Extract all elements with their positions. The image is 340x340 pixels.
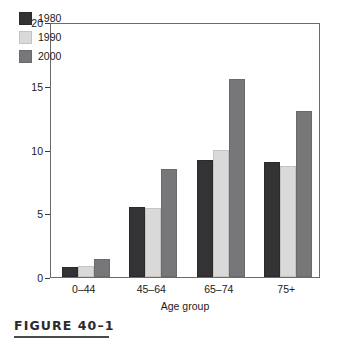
legend-swatch-icon (19, 12, 32, 25)
bar-2000-0–44 (94, 259, 110, 277)
bar-1990-65–74 (213, 150, 229, 278)
x-axis-title: Age group (50, 300, 320, 312)
x-axis-tick-label: 45–64 (116, 284, 186, 295)
bar-1990-45–64 (145, 208, 161, 277)
bar-group (129, 24, 177, 277)
legend-item-1990: 1990 (19, 28, 61, 47)
y-axis-title: Diabetes prevalence/100 population (0, 0, 16, 39)
y-axis-tick-label: 5 (17, 209, 43, 219)
bar-1980-75+ (264, 162, 280, 277)
legend-label: 2000 (38, 51, 61, 62)
bar-1990-0–44 (78, 266, 94, 277)
y-axis-tick-mark (45, 278, 50, 279)
plot-area (50, 23, 320, 278)
x-axis-tick-label: 75+ (251, 284, 321, 295)
bar-1990-75+ (280, 166, 296, 277)
bar-group (197, 24, 245, 277)
chart-legend: 198019902000 (19, 9, 61, 66)
legend-swatch-icon (19, 31, 32, 44)
legend-swatch-icon (19, 50, 32, 63)
bar-2000-65–74 (229, 79, 245, 277)
figure-caption: FIGURE 40–1 (14, 318, 115, 338)
bars-layer (51, 24, 319, 277)
figure-container: Diabetes prevalence/100 population 05101… (0, 0, 340, 340)
bar-1980-65–74 (197, 160, 213, 277)
x-axis-tick-label: 65–74 (184, 284, 254, 295)
legend-item-1980: 1980 (19, 9, 61, 28)
bar-2000-45–64 (161, 169, 177, 277)
legend-item-2000: 2000 (19, 47, 61, 66)
y-axis-tick-label: 15 (17, 82, 43, 92)
legend-label: 1990 (38, 32, 61, 43)
bar-1980-0–44 (62, 267, 78, 277)
figure-caption-text: FIGURE 40–1 (14, 318, 115, 333)
y-axis-tick-label: 0 (17, 273, 43, 283)
bar-group (62, 24, 110, 277)
y-axis-tick-label: 10 (17, 146, 43, 156)
x-axis-tick-label: 0–44 (49, 284, 119, 295)
bar-2000-75+ (296, 111, 312, 277)
bar-group (264, 24, 312, 277)
legend-label: 1980 (38, 13, 61, 24)
figure-caption-rule (14, 336, 109, 338)
bar-1980-45–64 (129, 207, 145, 277)
